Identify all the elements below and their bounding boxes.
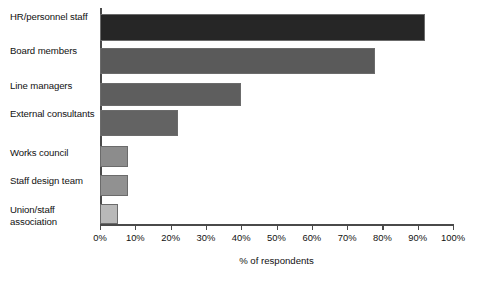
bar <box>100 110 178 136</box>
x-tick-label: 40% <box>232 232 251 243</box>
horizontal-bar-chart: HR/personnel staff Board members Line ma… <box>0 0 480 282</box>
bar <box>100 14 425 41</box>
x-tick-label: 90% <box>408 232 427 243</box>
category-label: HR/personnel staff <box>10 11 96 23</box>
x-tick <box>312 224 313 230</box>
x-tick <box>171 224 172 230</box>
x-tick-label: 80% <box>373 232 392 243</box>
x-tick-label: 30% <box>197 232 216 243</box>
x-axis-title: % of respondents <box>100 255 453 266</box>
x-tick-label: 0% <box>93 232 107 243</box>
x-tick <box>418 224 419 230</box>
category-axis-labels: HR/personnel staff Board members Line ma… <box>0 0 96 224</box>
bar <box>100 48 375 74</box>
category-label: Board members <box>10 45 96 57</box>
bar <box>100 175 128 196</box>
x-tick <box>100 224 101 230</box>
x-tick <box>241 224 242 230</box>
x-tick-label: 100% <box>441 232 465 243</box>
category-label: External consultants <box>10 108 96 120</box>
bar <box>100 83 241 106</box>
x-tick <box>135 224 136 230</box>
category-label: Works council <box>10 147 96 159</box>
category-label: Union/staff association <box>10 204 96 227</box>
x-tick <box>453 224 454 230</box>
bar <box>100 146 128 167</box>
x-tick <box>277 224 278 230</box>
x-tick <box>347 224 348 230</box>
x-tick-label: 60% <box>302 232 321 243</box>
x-tick-label: 50% <box>267 232 286 243</box>
category-label: Staff design team <box>10 175 96 187</box>
x-tick-label: 20% <box>161 232 180 243</box>
bar <box>100 204 118 224</box>
x-tick-label: 70% <box>338 232 357 243</box>
x-tick <box>206 224 207 230</box>
x-tick <box>382 224 383 230</box>
category-label: Line managers <box>10 80 96 92</box>
plot-area <box>100 8 453 224</box>
x-tick-label: 10% <box>126 232 145 243</box>
